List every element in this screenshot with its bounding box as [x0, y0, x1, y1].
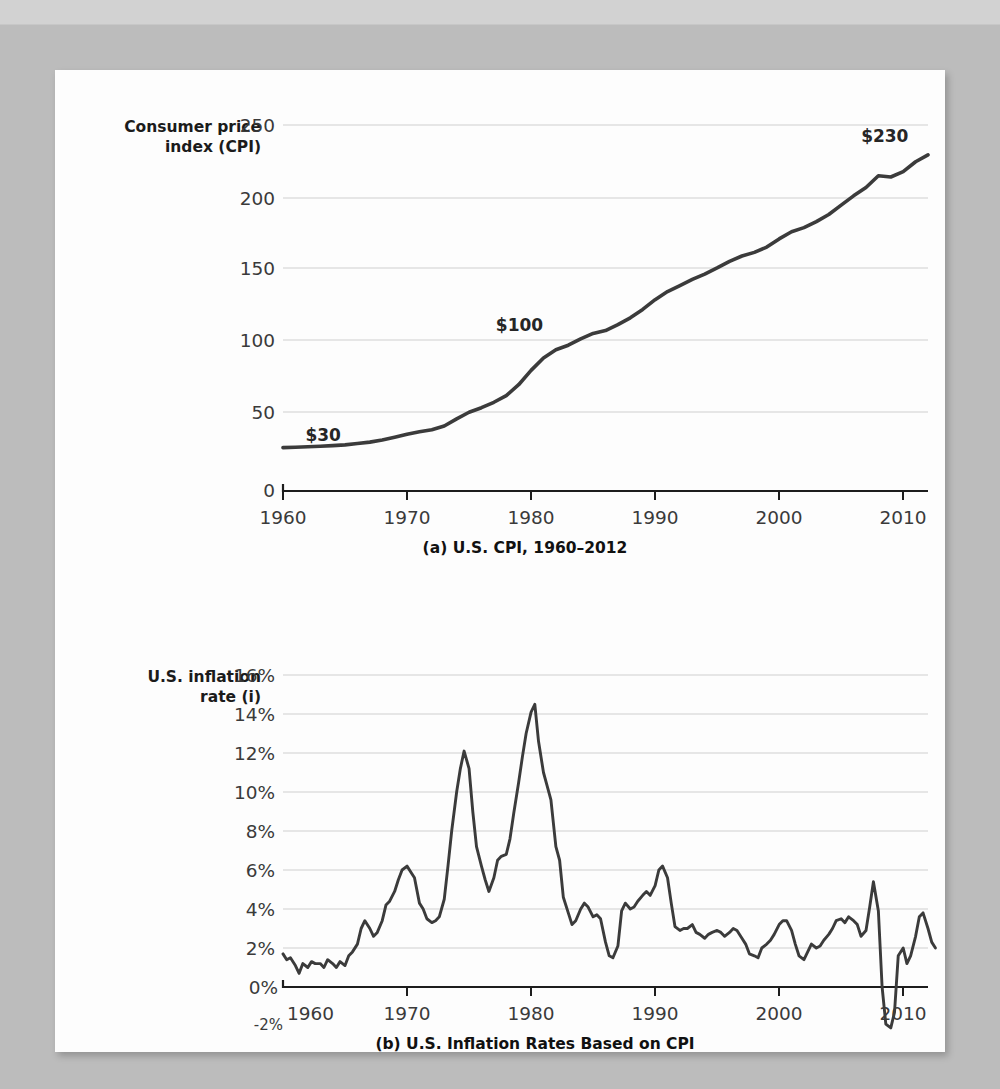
- cpi-gridlines: [283, 125, 928, 412]
- cpi-xtick-2010: 2010: [879, 507, 926, 528]
- cpi-annotation-30: $30: [305, 425, 341, 445]
- cpi-xtick-1980: 1980: [507, 507, 554, 528]
- inflation-ytick-0: 0%: [249, 977, 278, 998]
- inflation-gridlines: [283, 675, 928, 948]
- inflation-xtick-1960: 1960: [287, 1003, 334, 1024]
- cpi-data-line: [283, 155, 928, 448]
- cpi-ytick-200: 200: [240, 188, 275, 209]
- cpi-x-ticks: 1960 1970 1980 1990 2000 2010: [259, 507, 926, 528]
- chart-inflation-svg: U.S. inflation rate (i) 16% 14% 12% 10% …: [55, 560, 945, 1052]
- inflation-ytick-12: 12%: [234, 743, 275, 764]
- cpi-ytick-100: 100: [240, 330, 275, 351]
- cpi-caption: (a) U.S. CPI, 1960–2012: [423, 539, 628, 557]
- inflation-xtick-1980: 1980: [507, 1003, 554, 1024]
- cpi-annotation-100: $100: [496, 315, 543, 335]
- inflation-axis-line: [283, 980, 928, 987]
- inflation-xtick-2000: 2000: [755, 1003, 802, 1024]
- figure-card: Consumer price index (CPI) 250 200 150 1…: [55, 70, 945, 1052]
- cpi-annotation-230: $230: [861, 126, 908, 146]
- inflation-xtick-1990: 1990: [631, 1003, 678, 1024]
- inflation-ytick-4: 4%: [246, 899, 275, 920]
- inflation-ytick-16: 16%: [234, 665, 275, 686]
- cpi-ylabel-line2: index (CPI): [165, 138, 261, 156]
- inflation-caption: (b) U.S. Inflation Rates Based on CPI: [375, 1035, 694, 1052]
- cpi-xtick-1990: 1990: [631, 507, 678, 528]
- cpi-ytick-250: 250: [240, 115, 275, 136]
- inflation-ytick-14: 14%: [234, 704, 275, 725]
- cpi-ytick-150: 150: [240, 258, 275, 279]
- inflation-ytick-10: 10%: [234, 782, 275, 803]
- cpi-x-tickmarks: [283, 491, 903, 500]
- inflation-x-ticks: 1960 1970 1980 1990 2000 2010: [287, 1003, 927, 1024]
- cpi-ytick-0: 0: [263, 480, 275, 501]
- chart-inflation: U.S. inflation rate (i) 16% 14% 12% 10% …: [55, 560, 945, 1052]
- inflation-x-tickmarks: [407, 987, 903, 996]
- cpi-xtick-1960: 1960: [259, 507, 306, 528]
- cpi-xtick-1970: 1970: [383, 507, 430, 528]
- inflation-ytick-8: 8%: [246, 821, 275, 842]
- cpi-ytick-50: 50: [251, 402, 275, 423]
- chart-cpi-svg: Consumer price index (CPI) 250 200 150 1…: [55, 70, 945, 560]
- cpi-y-ticks: 250 200 150 100 50 0: [240, 115, 275, 501]
- cpi-axis-line: [283, 484, 928, 491]
- cpi-xtick-2000: 2000: [755, 507, 802, 528]
- inflation-ytick-neg2: -2%: [254, 1016, 283, 1034]
- inflation-y-ticks: 16% 14% 12% 10% 8% 6% 4% 2% 0% -2%: [234, 665, 283, 1034]
- chart-cpi: Consumer price index (CPI) 250 200 150 1…: [55, 70, 945, 560]
- page-background: Consumer price index (CPI) 250 200 150 1…: [0, 0, 1000, 1089]
- inflation-ytick-6: 6%: [246, 860, 275, 881]
- inflation-ytick-2: 2%: [246, 938, 275, 959]
- inflation-xtick-1970: 1970: [383, 1003, 430, 1024]
